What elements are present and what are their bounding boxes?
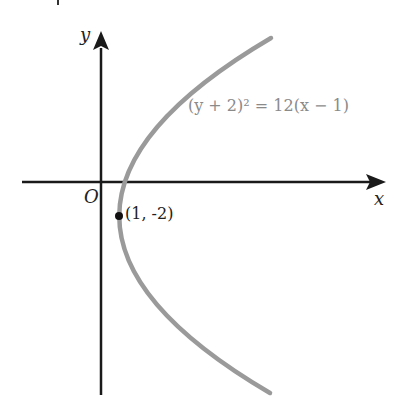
- vertex-point: [115, 212, 123, 220]
- y-axis-arrow-icon: [93, 31, 109, 50]
- origin-label: O: [84, 186, 99, 207]
- y-axis-label: y: [80, 24, 90, 45]
- graph-canvas: [0, 0, 400, 416]
- x-axis-label: x: [374, 188, 384, 209]
- equation-label: (y + 2)² = 12(x − 1): [188, 96, 349, 115]
- vertex-label: (1, -2): [125, 204, 173, 223]
